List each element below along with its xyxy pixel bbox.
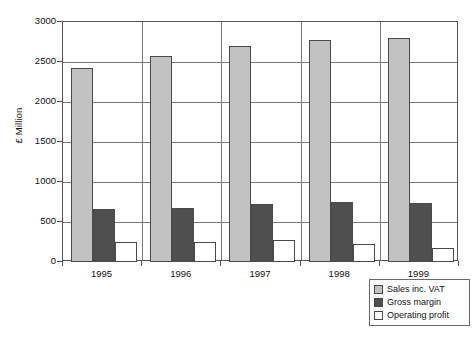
- bar-chart: £ Million 050010001500200025003000 19951…: [0, 0, 476, 337]
- bar: [388, 38, 410, 262]
- bar: [229, 46, 251, 262]
- bar: [172, 208, 194, 262]
- legend-label: Operating profit: [387, 310, 449, 321]
- x-tick-label: 1995: [62, 268, 142, 279]
- y-tick-label: 3000: [12, 16, 56, 26]
- x-tick-mark: [141, 261, 142, 266]
- bar: [150, 56, 172, 262]
- x-tick-mark: [220, 261, 221, 266]
- x-tick-mark: [62, 261, 63, 266]
- legend-item[interactable]: Sales inc. VAT: [374, 283, 465, 296]
- x-tick-label: 1997: [220, 268, 300, 279]
- y-tick-label: 0: [12, 256, 56, 266]
- bar: [410, 203, 432, 262]
- bar: [353, 244, 375, 262]
- y-tick-label: 1500: [12, 136, 56, 146]
- category-separator: [301, 22, 302, 260]
- x-tick-mark: [458, 261, 459, 266]
- plot-area: [62, 21, 458, 261]
- legend-swatch-icon: [374, 298, 383, 307]
- x-tick-label: 1996: [141, 268, 221, 279]
- legend-item[interactable]: Operating profit: [374, 309, 465, 322]
- category-separator: [380, 22, 381, 260]
- y-tick-label: 1000: [12, 176, 56, 186]
- bar: [309, 40, 331, 262]
- x-tick-label: 1998: [299, 268, 379, 279]
- legend-label: Sales inc. VAT: [387, 284, 445, 295]
- legend-swatch-icon: [374, 311, 383, 320]
- bar: [71, 68, 93, 262]
- legend-label: Gross margin: [387, 297, 441, 308]
- category-separator: [221, 22, 222, 260]
- bar: [432, 248, 454, 262]
- legend: Sales inc. VATGross marginOperating prof…: [369, 279, 470, 326]
- bar: [331, 202, 353, 262]
- bar: [115, 242, 137, 262]
- x-tick-mark: [379, 261, 380, 266]
- bar: [251, 204, 273, 262]
- bar: [273, 240, 295, 262]
- bar: [93, 209, 115, 262]
- x-tick-label: 1999: [378, 268, 458, 279]
- y-tick-label: 2500: [12, 56, 56, 66]
- legend-swatch-icon: [374, 285, 383, 294]
- y-tick-label: 500: [12, 216, 56, 226]
- x-tick-mark: [300, 261, 301, 266]
- y-tick-label: 2000: [12, 96, 56, 106]
- category-separator: [142, 22, 143, 260]
- bar: [194, 242, 216, 262]
- legend-item[interactable]: Gross margin: [374, 296, 465, 309]
